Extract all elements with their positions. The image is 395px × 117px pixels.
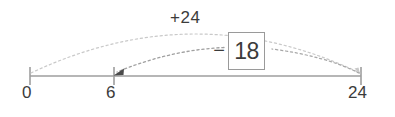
add-arc-path [31,34,360,73]
tick-label-zero: 0 [22,84,31,101]
subtract-arc-path-right [272,49,359,73]
number-line-diagram: 0 6 24 +24 − 18 [0,0,395,117]
minus-sign-icon: − [213,40,225,60]
answer-value: 18 [234,40,259,63]
subtract-arc-path-left [117,48,224,73]
tick-label-six: 6 [106,84,115,101]
answer-box[interactable]: 18 [228,32,265,70]
subtract-arc-arrowhead-icon [114,69,125,76]
add-arc-label: +24 [170,9,200,26]
tick-label-twentyfour: 24 [348,84,367,101]
